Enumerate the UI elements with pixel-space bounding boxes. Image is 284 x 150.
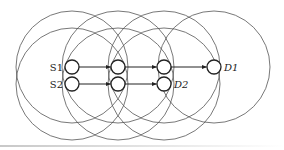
node-label-d2: D2 [173, 79, 188, 90]
node-a2 [111, 77, 125, 91]
node-d1 [207, 60, 221, 74]
transmission-ranges [16, 11, 270, 140]
node-label-s2: S2 [50, 79, 63, 90]
node-label-s1: S1 [50, 62, 63, 73]
node-b1 [157, 60, 171, 74]
node-label-d1: D1 [223, 62, 238, 73]
node-d2 [157, 77, 171, 91]
node-s1 [65, 60, 79, 74]
bottom-divider [0, 145, 284, 147]
node-s2 [65, 77, 79, 91]
nodes: S1S2D2D1 [50, 60, 239, 91]
node-a1 [111, 60, 125, 74]
network-diagram: S1S2D2D1 [0, 0, 284, 150]
